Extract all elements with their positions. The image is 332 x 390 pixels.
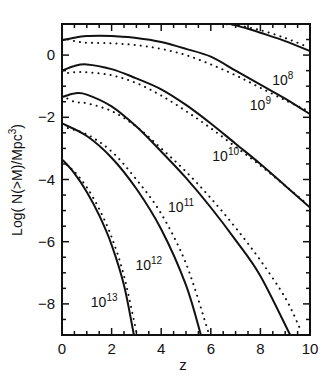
curve-label: 108 [272, 70, 294, 88]
dotted-curve [221, 24, 305, 46]
curve-label: 109 [250, 95, 272, 113]
x-tick-label: 10 [302, 340, 319, 357]
curve-label: 1012 [135, 255, 162, 273]
axis-ticks [62, 24, 310, 335]
x-tick-label: 0 [58, 340, 66, 357]
y-axis-label: Log( N(>M)/Mpc3) [7, 124, 25, 236]
solid-curve [231, 24, 310, 51]
y-tick-label: −6 [38, 233, 55, 250]
y-tick-label: −8 [38, 295, 55, 312]
y-tick-label: 0 [47, 46, 55, 63]
y-tick-label: −2 [38, 108, 55, 125]
plot-frame [62, 24, 310, 335]
x-axis-label: z [179, 356, 187, 373]
x-tick-label: 8 [256, 340, 264, 357]
solid-curve [62, 124, 201, 336]
curve-label: 1013 [91, 292, 118, 310]
x-tick-label: 6 [207, 340, 215, 357]
dotted-curve [62, 72, 308, 205]
x-tick-label: 2 [107, 340, 115, 357]
plot-curves [62, 24, 310, 335]
x-tick-label: 4 [157, 340, 165, 357]
curve-label: 1011 [168, 197, 194, 215]
mass-function-chart: 0246810 0−2−4−6−8 z Log( N(>M)/Mpc3) 108… [0, 0, 332, 390]
y-tick-label: −4 [38, 171, 55, 188]
y-tick-labels: 0−2−4−6−8 [38, 46, 55, 312]
dotted-curve [62, 127, 208, 332]
x-tick-labels: 0246810 [58, 340, 319, 357]
curve-label: 1010 [212, 146, 239, 164]
